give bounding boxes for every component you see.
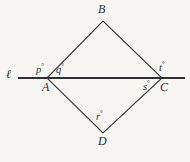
line-label-l: ℓ [6, 68, 11, 80]
vertex-label-b: B [98, 3, 105, 15]
degree-sign-s: ° [147, 79, 150, 87]
vertex-label-c: C [160, 81, 168, 93]
degree-sign-q: ° [61, 62, 64, 70]
angle-label-t: t° [159, 61, 165, 73]
geometry-figure: ℓ A B C D p° q° t° s° r° [0, 0, 190, 162]
angle-label-p: p° [36, 63, 44, 75]
degree-sign-p: ° [41, 62, 44, 70]
angle-label-r: r° [96, 110, 103, 122]
vertex-label-a: A [42, 81, 49, 93]
angle-label-q: q° [56, 63, 64, 75]
angle-label-s: s° [143, 80, 150, 92]
vertex-label-d: D [98, 135, 107, 147]
degree-sign-r: ° [100, 109, 103, 117]
degree-sign-t: ° [162, 60, 165, 68]
